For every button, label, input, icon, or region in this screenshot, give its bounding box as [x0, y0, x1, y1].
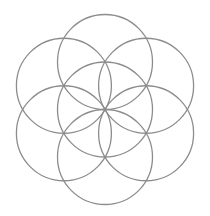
seed-of-life-diagram — [0, 0, 210, 216]
background — [0, 0, 210, 216]
